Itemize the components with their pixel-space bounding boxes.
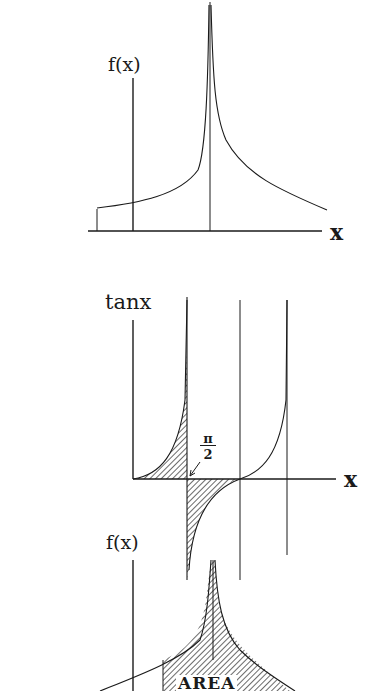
middle-x-label: x <box>344 468 357 490</box>
top-graph <box>88 2 327 231</box>
pi-half-denominator: 2 <box>200 448 216 461</box>
diagram-canvas <box>0 0 390 691</box>
bottom-y-label: f(x) <box>106 533 139 552</box>
top-y-label: f(x) <box>108 55 141 74</box>
top-x-label: x <box>330 221 343 243</box>
top-curve-right <box>211 5 327 210</box>
middle-y-label: tanx <box>105 292 151 313</box>
top-curve-left <box>97 5 209 208</box>
middle-graph <box>133 297 336 580</box>
pi-half-numerator: π <box>200 432 216 446</box>
pi-half-arrow <box>190 462 200 476</box>
area-label: AREA <box>176 675 237 691</box>
tan-shaded-positive <box>133 350 187 479</box>
area-shaded <box>163 560 290 691</box>
bottom-graph <box>100 560 295 691</box>
